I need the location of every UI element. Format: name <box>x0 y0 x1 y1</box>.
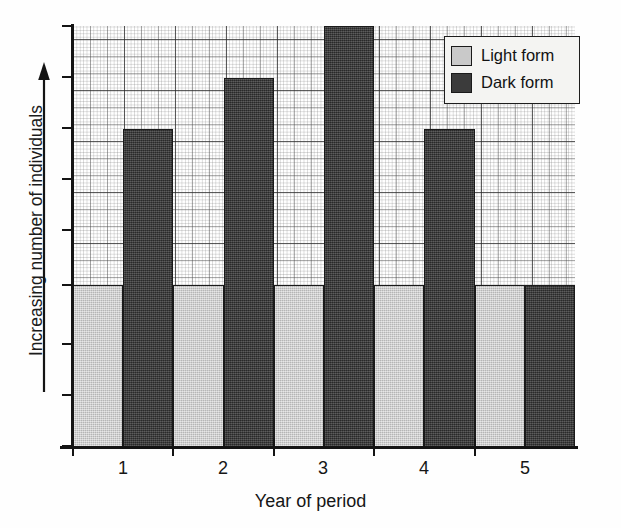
legend-label-dark-form: Dark form <box>481 73 553 92</box>
x-axis-title: Year of period <box>0 491 621 512</box>
legend-swatch-dark-icon <box>451 73 472 93</box>
increasing-arrow-icon <box>37 62 51 392</box>
bar-light-year-4 <box>374 285 424 447</box>
x-tick-label-3: 3 <box>303 458 343 479</box>
x-tick-label-2: 2 <box>203 458 243 479</box>
x-axis-tick <box>172 438 174 456</box>
bar-light-year-2 <box>173 285 223 447</box>
y-axis-tick <box>62 394 74 396</box>
y-axis-tick <box>62 284 74 286</box>
legend-label-light-form: Light form <box>481 46 554 65</box>
legend-swatch-light-icon <box>451 46 472 66</box>
top-caption <box>0 0 621 5</box>
y-axis-tick <box>62 25 74 27</box>
x-axis-tick <box>273 438 275 456</box>
x-axis-line <box>60 446 578 449</box>
y-axis-tick <box>62 178 74 180</box>
x-axis-tick <box>72 438 74 456</box>
bar-dark-year-4 <box>424 129 474 447</box>
y-axis-tick <box>62 127 74 129</box>
x-axis-tick <box>474 438 476 456</box>
chart-screenshot: Increasing number of individuals <box>0 0 621 528</box>
x-axis-tick <box>373 438 375 456</box>
bar-dark-year-5 <box>525 285 575 447</box>
bar-light-year-1 <box>73 285 123 447</box>
y-axis-tick <box>62 76 74 78</box>
y-axis-line <box>71 24 74 449</box>
x-tick-label-4: 4 <box>404 458 444 479</box>
bar-dark-year-2 <box>224 78 274 447</box>
y-axis-tick <box>62 229 74 231</box>
x-tick-label-5: 5 <box>505 458 545 479</box>
legend: Light form Dark form <box>444 36 580 104</box>
bar-dark-year-1 <box>123 129 173 447</box>
x-tick-label-1: 1 <box>103 458 143 479</box>
bar-light-year-3 <box>274 285 324 447</box>
bar-dark-year-3 <box>324 26 374 447</box>
legend-entry-dark-form: Dark form <box>451 69 573 96</box>
legend-entry-light-form: Light form <box>451 42 573 69</box>
bar-light-year-5 <box>475 285 525 447</box>
y-axis-tick <box>62 343 74 345</box>
